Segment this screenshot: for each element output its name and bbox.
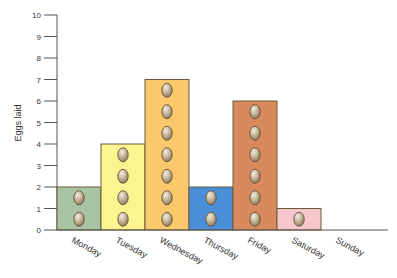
x-tick-label-monday: Monday	[70, 235, 103, 259]
egg-icon	[206, 191, 216, 205]
y-tick-label: 3	[37, 162, 42, 171]
egg-icon	[118, 148, 128, 162]
y-tick-label: 1	[37, 205, 42, 214]
egg-icon	[118, 191, 128, 205]
bar-saturday	[277, 209, 321, 231]
egg-icon	[162, 83, 172, 97]
egg-icon	[250, 148, 260, 162]
egg-icon	[250, 126, 260, 140]
y-tick-label: 8	[37, 54, 42, 63]
x-tick-label-wednesday: Wednesday	[158, 235, 205, 266]
y-tick-label: 6	[37, 97, 42, 106]
y-tick-label: 2	[37, 183, 42, 192]
y-axis-title: Eggs laid	[13, 104, 23, 141]
egg-icon	[162, 126, 172, 140]
egg-icon	[162, 212, 172, 226]
bar-friday	[233, 101, 277, 230]
bar-tuesday	[101, 144, 145, 230]
egg-icon	[118, 212, 128, 226]
bars	[57, 80, 321, 231]
egg-icon	[162, 169, 172, 183]
x-tick-label-sunday: Sunday	[334, 235, 366, 258]
egg-icon	[206, 212, 216, 226]
x-axis: MondayTuesdayWednesdayThursdayFridaySatu…	[57, 230, 388, 266]
y-tick-label: 10	[32, 11, 41, 20]
bar-thursday	[189, 187, 233, 230]
y-tick-label: 4	[37, 140, 42, 149]
y-tick-label: 9	[37, 33, 42, 42]
pictogram-bar-chart: 012345678910 MondayTuesdayWednesdayThurs…	[0, 0, 397, 278]
bar-monday	[57, 187, 101, 230]
y-axis: 012345678910	[32, 11, 57, 235]
y-tick-label: 0	[37, 226, 42, 235]
x-tick-label-saturday: Saturday	[290, 235, 327, 261]
egg-icon	[74, 212, 84, 226]
egg-icon	[74, 191, 84, 205]
egg-icon	[162, 105, 172, 119]
x-tick-label-thursday: Thursday	[202, 235, 240, 262]
bar-rect	[233, 101, 277, 230]
y-tick-label: 7	[37, 76, 42, 85]
egg-icon	[162, 191, 172, 205]
egg-icon	[250, 169, 260, 183]
egg-icon	[294, 212, 304, 226]
y-tick-label: 5	[37, 119, 42, 128]
egg-icon	[118, 169, 128, 183]
x-tick-label-friday: Friday	[246, 235, 273, 256]
egg-icon	[250, 105, 260, 119]
egg-icon	[250, 212, 260, 226]
bar-wednesday	[145, 80, 189, 231]
egg-icon	[162, 148, 172, 162]
x-tick-label-tuesday: Tuesday	[114, 235, 149, 260]
egg-icon	[250, 191, 260, 205]
